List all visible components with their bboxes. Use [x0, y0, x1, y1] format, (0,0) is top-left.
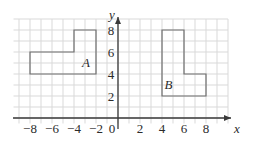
- x-tick-label: −8: [23, 121, 37, 136]
- x-tick-label: −2: [89, 121, 103, 136]
- x-tick-label: −6: [45, 121, 59, 136]
- y-tick-label: 6: [108, 45, 115, 60]
- x-axis-label: x: [233, 121, 240, 136]
- shape-label-b: B: [165, 77, 173, 92]
- coordinate-grid-svg: −8−6−4−2024682468 x y AB: [0, 0, 253, 148]
- x-tick-label: 0: [109, 121, 116, 136]
- y-tick-label: 4: [108, 67, 115, 82]
- x-tick-label: 4: [159, 121, 166, 136]
- x-tick-label: 2: [137, 121, 144, 136]
- coordinate-plane-figure: −8−6−4−2024682468 x y AB: [0, 0, 253, 148]
- shape-label-a: A: [81, 55, 90, 70]
- x-tick-label: −4: [67, 121, 81, 136]
- y-tick-label: 2: [108, 89, 115, 104]
- x-tick-label: 8: [203, 121, 210, 136]
- x-tick-label: 6: [181, 121, 188, 136]
- y-tick-label: 8: [108, 23, 115, 38]
- y-axis-label: y: [107, 7, 115, 22]
